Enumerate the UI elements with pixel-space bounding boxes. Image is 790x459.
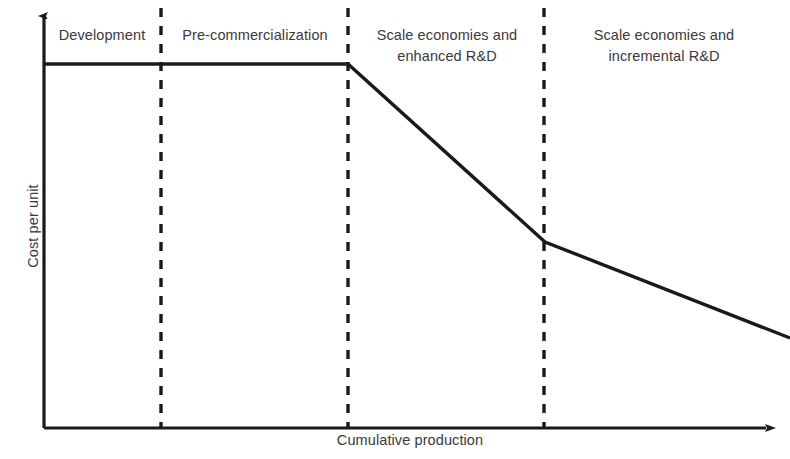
chart-canvas — [0, 0, 790, 459]
phase-label-pre-commercialization: Pre-commercialization — [166, 25, 344, 46]
experience-curve-line — [44, 64, 790, 338]
phase-label-development: Development — [48, 25, 156, 46]
x-axis-title: Cumulative production — [44, 432, 776, 448]
phase-label-scale-economies-incremental-rd: Scale economies and incremental R&D — [552, 25, 776, 67]
phase-label-scale-economies-enhanced-rd: Scale economies and enhanced R&D — [354, 25, 540, 67]
experience-curve-chart: Development Pre-commercialization Scale … — [0, 0, 790, 459]
y-axis-title: Cost per unit — [25, 146, 41, 306]
